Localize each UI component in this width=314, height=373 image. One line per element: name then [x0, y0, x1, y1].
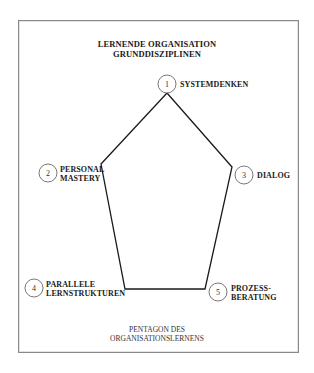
node-1-number: 1: [165, 80, 169, 89]
node-4-label: PARALLELE LERNSTRUKTUREN: [46, 280, 125, 298]
caption-line-2: ORGANISATIONSLERNENS: [0, 334, 314, 343]
node-4-marker: 4: [25, 279, 43, 297]
node-1-label: SYSTEMDENKEN: [180, 80, 248, 89]
caption-line-1: PENTAGON DES: [0, 325, 314, 334]
node-5-label: PROZESS- BERATUNG: [231, 284, 277, 302]
node-3-number: 3: [242, 171, 246, 180]
pentagon-diagram: 1 2 3 4 5: [0, 0, 314, 373]
node-5-number: 5: [216, 288, 220, 297]
node-1-marker: 1: [158, 75, 176, 93]
node-2-label: PERSONAL MASTERY: [60, 165, 104, 183]
node-2-marker: 2: [39, 164, 57, 182]
node-3-label: DIALOG: [257, 171, 290, 180]
pentagon-shape: [101, 93, 232, 289]
node-3-marker: 3: [235, 166, 253, 184]
diagram-caption: PENTAGON DES ORGANISATIONSLERNENS: [0, 325, 314, 343]
node-2-number: 2: [46, 169, 50, 178]
node-5-marker: 5: [209, 283, 227, 301]
node-4-number: 4: [32, 284, 36, 293]
